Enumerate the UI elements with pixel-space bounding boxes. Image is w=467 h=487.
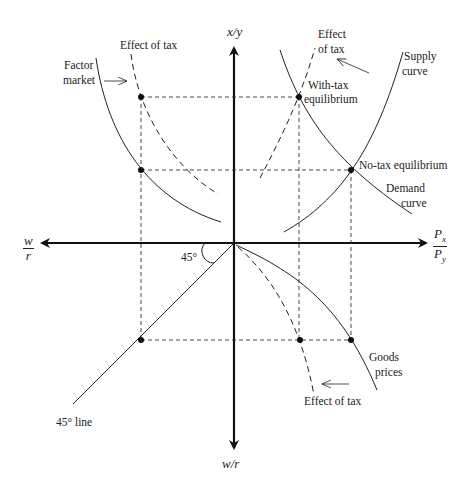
- label-supply-curve-1: Supply: [404, 50, 437, 63]
- goods-prices-tax-curve: [238, 247, 314, 395]
- label-factor-market-2: market: [63, 74, 95, 87]
- label-factor-market-1: Factor: [64, 59, 93, 72]
- line-45: [73, 243, 234, 404]
- label-goods-prices-2: prices: [375, 366, 402, 379]
- axis-label-up: x/y: [227, 25, 242, 38]
- label-with-tax-1: With-tax: [308, 79, 348, 92]
- goods-prices-curve: [236, 245, 377, 390]
- factor-market-tax-curve: [131, 54, 218, 194]
- label-demand-curve-1: Demand: [386, 182, 425, 195]
- point-with-tax-equilibrium: [296, 94, 302, 100]
- supply-tax-curve: [260, 48, 315, 178]
- axis-label-down: w/r: [222, 457, 239, 470]
- factor-market-curve: [96, 58, 221, 222]
- axis-label-right: Px Py: [433, 227, 447, 265]
- point-goods-no-tax: [348, 337, 354, 343]
- label-effect-of-tax-top-left: Effect of tax: [120, 39, 177, 52]
- axis-label-left: w r: [23, 234, 34, 263]
- label-demand-curve-2: curve: [401, 197, 427, 210]
- label-effect-top-right-2: of tax: [318, 43, 345, 56]
- axes: [42, 48, 426, 448]
- points: [138, 94, 354, 343]
- label-45-line: 45° line: [56, 416, 92, 429]
- label-no-tax-equilibrium: No-tax equilibrium: [359, 159, 447, 172]
- label-effect-of-tax-bottom: Effect of tax: [304, 395, 361, 408]
- point-factor-with-tax: [138, 94, 144, 100]
- angle-arc: [202, 243, 214, 263]
- point-factor-no-tax: [138, 167, 144, 173]
- point-45-line: [138, 337, 144, 343]
- guide-lines: [141, 97, 351, 340]
- point-no-tax-equilibrium: [348, 167, 354, 173]
- point-goods-with-tax: [297, 337, 303, 343]
- label-angle-45: 45°: [181, 251, 197, 264]
- label-supply-curve-2: curve: [402, 65, 428, 78]
- label-effect-top-right-1: Effect: [318, 28, 346, 41]
- label-with-tax-2: equilibrium: [304, 93, 358, 106]
- label-goods-prices-1: Goods: [369, 351, 399, 364]
- arrow-effect-top-right: [337, 59, 369, 73]
